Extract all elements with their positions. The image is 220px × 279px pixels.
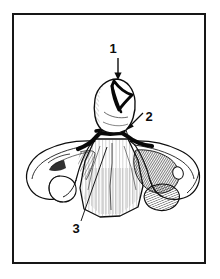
callout-number-3: 3: [72, 221, 79, 236]
callout-number-2: 2: [145, 109, 152, 124]
figure-root: 1 2 3: [0, 0, 220, 279]
callout-number-1: 1: [109, 41, 116, 56]
right-inferior-facet: [144, 184, 179, 211]
vertebra-illustration: 1 2 3: [0, 0, 220, 279]
odontoid-process: [94, 79, 135, 133]
vertebra-body-group: [26, 139, 199, 217]
